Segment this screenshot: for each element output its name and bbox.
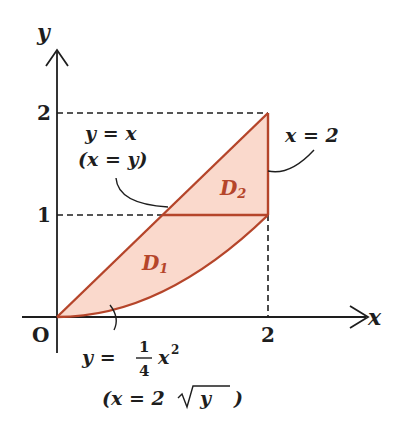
- svg-text:2: 2: [171, 343, 179, 357]
- svg-text:y =: y =: [81, 346, 116, 368]
- parabola-equation-inverse: (x = 2 y ): [102, 386, 243, 409]
- svg-text:y: y: [199, 387, 213, 409]
- line-equation-inverse: (x = y): [78, 148, 148, 170]
- line-equation: y = x: [84, 122, 137, 144]
- svg-text:4: 4: [139, 362, 149, 380]
- svg-text:x: x: [157, 346, 170, 368]
- diagram: y x O 2 1 2 D1 D2 y = x (x = y) x = 2 y …: [0, 0, 393, 428]
- vertical-line-equation: x = 2: [284, 124, 339, 146]
- svg-text:1: 1: [139, 338, 149, 356]
- region-diagram-svg: y x O 2 1 2 D1 D2 y = x (x = y) x = 2 y …: [0, 0, 393, 428]
- x-axis-label: x: [367, 304, 382, 330]
- svg-text:): ): [233, 387, 243, 409]
- y-tick-2: 2: [37, 101, 51, 125]
- y-tick-1: 1: [37, 203, 51, 227]
- x-tick-2: 2: [261, 323, 275, 347]
- y-axis-label: y: [36, 19, 52, 45]
- parabola-equation: y = 1 4 x 2: [81, 338, 179, 380]
- svg-text:(x = 2: (x = 2: [102, 387, 165, 409]
- origin-label: O: [32, 323, 49, 347]
